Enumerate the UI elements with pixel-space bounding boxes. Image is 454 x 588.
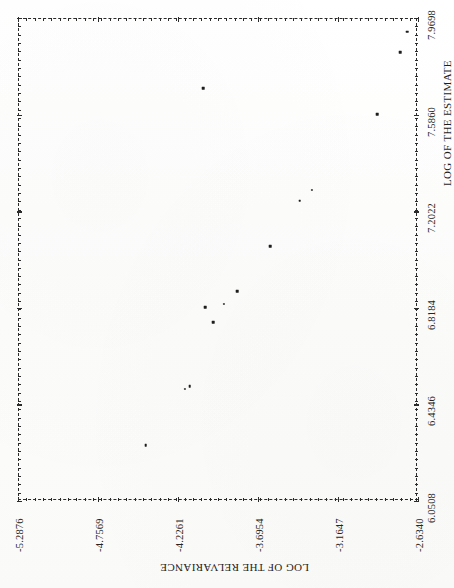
tick-mark-major [17, 18, 22, 19]
tick-mark [18, 226, 21, 227]
tick-mark [415, 110, 418, 111]
tick-mark [18, 443, 21, 444]
tick-mark [415, 251, 418, 252]
tick-mark [415, 151, 418, 152]
tick-mark [18, 60, 21, 61]
x-axis-tick-label: 7.5860 [426, 107, 437, 137]
tick-mark [18, 235, 21, 236]
x-axis-tick-label: 6.0508 [426, 493, 437, 523]
tick-mark [385, 18, 386, 21]
chart-description: Scatter plot of log of the relvariance v… [0, 0, 1, 1]
tick-mark [226, 18, 227, 21]
tick-mark [415, 143, 418, 144]
tick-mark-major [178, 497, 179, 502]
tick-mark [415, 68, 418, 69]
tick-mark-major [178, 17, 179, 22]
tick-mark [193, 498, 194, 501]
tick-mark [18, 68, 21, 69]
data-point [212, 321, 215, 324]
tick-mark [18, 343, 21, 344]
tick-mark [415, 334, 418, 335]
tick-mark [343, 498, 344, 501]
tick-mark [126, 18, 127, 21]
tick-mark [68, 18, 69, 21]
tick-mark [301, 18, 302, 21]
tick-mark [18, 251, 21, 252]
tick-mark [415, 301, 418, 302]
tick-mark [415, 218, 418, 219]
tick-mark [415, 309, 418, 310]
tick-mark [93, 498, 94, 501]
tick-mark [415, 393, 418, 394]
tick-mark [351, 18, 352, 21]
tick-mark [310, 498, 311, 501]
tick-mark [18, 334, 21, 335]
tick-mark [101, 18, 102, 21]
tick-mark [415, 243, 418, 244]
tick-mark [415, 93, 418, 94]
tick-mark [235, 18, 236, 21]
tick-mark [415, 85, 418, 86]
tick-mark [415, 401, 418, 402]
tick-mark [415, 235, 418, 236]
tick-mark [410, 498, 411, 501]
y-axis-tick-label: -3.1647 [334, 518, 345, 552]
y-axis-tick-label: -4.7569 [94, 518, 105, 552]
tick-mark [360, 498, 361, 501]
tick-mark [160, 498, 161, 501]
tick-mark [415, 168, 418, 169]
tick-mark [415, 493, 418, 494]
tick-mark [393, 18, 394, 21]
tick-mark [285, 18, 286, 21]
plot-area [18, 18, 418, 501]
tick-mark [218, 498, 219, 501]
tick-mark [335, 18, 336, 21]
data-point [144, 444, 147, 447]
tick-mark [18, 201, 21, 202]
tick-mark [43, 18, 44, 21]
tick-mark [235, 498, 236, 501]
data-point [223, 303, 225, 305]
tick-mark [268, 498, 269, 501]
data-point [236, 290, 239, 293]
tick-mark [415, 293, 418, 294]
tick-mark-major [414, 211, 419, 212]
tick-mark [18, 368, 21, 369]
data-point [269, 245, 272, 248]
tick-mark [343, 18, 344, 21]
tick-mark [18, 301, 21, 302]
tick-mark [110, 18, 111, 21]
tick-mark [135, 498, 136, 501]
tick-mark [76, 498, 77, 501]
tick-mark [193, 18, 194, 21]
tick-mark [18, 51, 21, 52]
tick-mark-major [17, 115, 22, 116]
tick-mark [51, 498, 52, 501]
tick-mark [85, 498, 86, 501]
tick-mark [415, 185, 418, 186]
tick-mark [18, 293, 21, 294]
tick-mark [18, 326, 21, 327]
tick-mark [18, 85, 21, 86]
tick-mark [415, 135, 418, 136]
tick-mark-major [414, 18, 419, 19]
tick-mark [60, 498, 61, 501]
tick-mark [415, 351, 418, 352]
tick-mark [251, 18, 252, 21]
x-axis-title: LOG OF THE ESTIMATE [441, 60, 453, 186]
tick-mark [415, 35, 418, 36]
tick-mark [415, 126, 418, 127]
tick-mark [210, 18, 211, 21]
tick-mark [226, 498, 227, 501]
tick-mark [415, 226, 418, 227]
tick-mark [18, 426, 21, 427]
tick-mark [415, 459, 418, 460]
y-axis-tick-label: -3.6954 [254, 518, 265, 552]
tick-mark [143, 18, 144, 21]
data-point [188, 385, 191, 388]
tick-mark [285, 498, 286, 501]
x-axis-tick-label: 7.2022 [426, 203, 437, 233]
tick-mark [126, 498, 127, 501]
tick-mark [18, 110, 21, 111]
tick-mark [101, 498, 102, 501]
